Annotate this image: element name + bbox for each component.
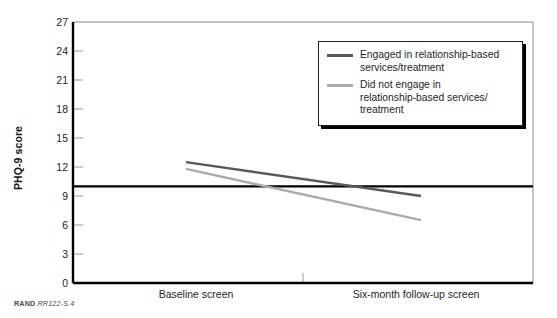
- y-axis-tick-label: 0: [46, 278, 68, 289]
- y-axis-tick-label: 15: [46, 133, 68, 144]
- legend-item-engaged: Engaged in relationship-based services/t…: [327, 49, 514, 74]
- legend-item-not-engaged: Did not engage in relationship-based ser…: [327, 79, 514, 117]
- y-axis-tick-label: 18: [46, 104, 68, 115]
- y-axis-tick-label: 6: [46, 220, 68, 231]
- y-axis-tick-labels: 0369121518212427: [42, 0, 68, 318]
- y-axis-tick-label: 12: [46, 162, 68, 173]
- caption-brand: RAND: [14, 299, 35, 308]
- y-axis-tick-label: 3: [46, 249, 68, 260]
- legend-label-engaged: Engaged in relationship-based services/t…: [360, 49, 499, 74]
- y-axis-title: PHQ-9 score: [12, 98, 24, 218]
- y-axis-tick-label: 24: [46, 46, 68, 57]
- chart-legend: Engaged in relationship-based services/t…: [318, 41, 523, 126]
- legend-swatch-not-engaged: [327, 84, 353, 87]
- series-line-not-engaged: [186, 169, 421, 220]
- legend-label-not-engaged: Did not engage in relationship-based ser…: [360, 79, 488, 117]
- legend-swatch-engaged: [327, 54, 353, 57]
- x-axis-tick-label: Six-month follow-up screen: [353, 288, 480, 300]
- y-axis-tick-label: 27: [46, 17, 68, 28]
- x-axis-tick-label: Baseline screen: [159, 288, 234, 300]
- y-axis-tick-label: 21: [46, 75, 68, 86]
- y-axis-tick-label: 9: [46, 191, 68, 202]
- figure-phq9-trend: PHQ-9 score 0369121518212427 Baseline sc…: [0, 0, 557, 318]
- series-line-engaged: [186, 162, 421, 196]
- caption-id: RR122-S.4: [38, 299, 75, 308]
- source-caption: RAND RR122-S.4: [14, 299, 74, 308]
